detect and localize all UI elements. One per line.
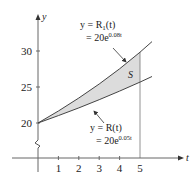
y-axis-arrow-icon <box>36 14 41 20</box>
shaded-region-s <box>38 52 140 123</box>
x-axis-label: t <box>186 152 189 163</box>
y-tick-label-25: 25 <box>21 81 33 93</box>
y-tick-label-30: 30 <box>21 45 33 57</box>
x-tick-label-5: 5 <box>137 162 143 174</box>
x-tick-label-4: 4 <box>117 162 123 174</box>
x-axis-arrow-icon <box>178 156 184 161</box>
lower-curve-label-line2: = 20e0.05t <box>96 134 132 146</box>
x-tick-label-3: 3 <box>96 162 102 174</box>
x-tick-label-2: 2 <box>76 162 82 174</box>
lower-curve-label-line1: y = R(t) <box>90 122 122 134</box>
arrow-to-r1 <box>113 48 126 62</box>
y-axis-break-icon <box>35 140 40 148</box>
x-tick-label-1: 1 <box>56 162 62 174</box>
y-axis-label: y <box>41 11 47 22</box>
y-tick-label-20: 20 <box>21 117 33 129</box>
region-label-s: S <box>128 69 133 80</box>
chart: y t 30 25 20 1 2 3 4 5 S y = R1(t) = 20e… <box>0 0 196 187</box>
upper-curve-label-line2: = 20e0.08t <box>86 31 122 43</box>
